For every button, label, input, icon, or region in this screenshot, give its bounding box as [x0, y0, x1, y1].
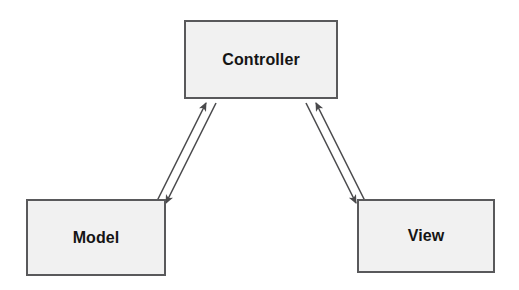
edge-model-to-controller [156, 103, 206, 203]
node-view-label: View [408, 228, 445, 244]
node-view[interactable]: View [357, 199, 495, 273]
diagram-canvas: Controller Model View [0, 0, 519, 290]
node-model-label: Model [73, 230, 120, 246]
node-controller[interactable]: Controller [184, 20, 338, 99]
node-model[interactable]: Model [26, 199, 166, 276]
edge-controller-to-view [306, 103, 356, 203]
edge-view-to-controller [316, 103, 366, 203]
edge-controller-to-model [166, 103, 216, 203]
node-controller-label: Controller [222, 52, 299, 68]
